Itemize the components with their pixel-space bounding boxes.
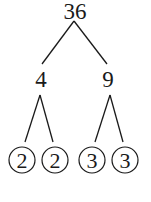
factor-4: 4 xyxy=(35,67,47,92)
branch-36-to-4 xyxy=(42,21,74,64)
branch-4-to-2b xyxy=(40,95,53,142)
prime-3a: 3 xyxy=(87,148,98,173)
prime-2a: 2 xyxy=(17,148,28,173)
prime-3b: 3 xyxy=(120,148,131,173)
branch-9-to-3b xyxy=(110,95,123,142)
branch-4-to-2a xyxy=(25,95,40,142)
branch-36-to-9 xyxy=(74,21,107,64)
factor-tree-diagram: 36 4 9 2 2 3 3 xyxy=(0,0,151,202)
branch-9-to-3a xyxy=(95,95,110,142)
factor-9: 9 xyxy=(102,67,114,92)
root-number: 36 xyxy=(64,0,87,24)
prime-2b: 2 xyxy=(50,148,61,173)
